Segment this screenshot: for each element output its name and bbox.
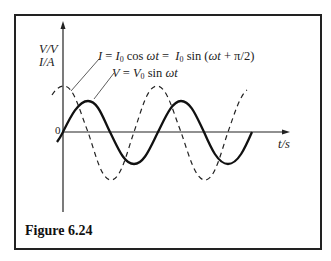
y-axis-label-current: I/A: [39, 55, 54, 70]
voltage-leader-line: [94, 73, 114, 99]
current-leader-line: [71, 59, 99, 91]
x-axis-label: t/s: [278, 137, 290, 152]
figure-caption: Figure 6.24: [25, 223, 92, 239]
current-curve: [52, 86, 247, 180]
x-axis-arrow-icon: [282, 130, 290, 135]
phase-diagram: [0, 0, 331, 261]
current-equation-label: I = I0 cos ωt = I0 sin (ωt + π/2): [98, 49, 254, 64]
voltage-equation-label: V = V0 sin ωt: [112, 66, 178, 81]
origin-label: 0: [55, 124, 61, 136]
y-axis-arrow-icon: [61, 21, 66, 29]
